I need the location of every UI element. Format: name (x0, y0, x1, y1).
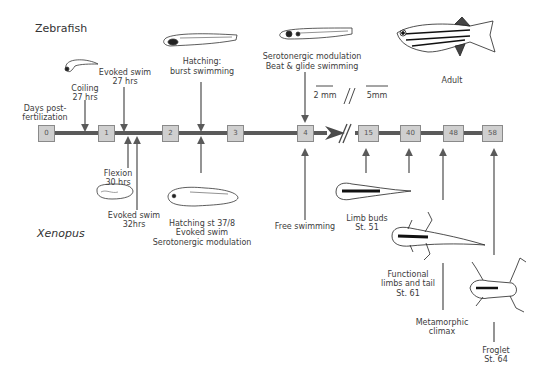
zebrafish-adult-icon (397, 17, 495, 56)
tick-day-4: 4 (297, 125, 314, 142)
scale-label-2mm: 2 mm (310, 91, 340, 101)
xenopus-tadpole-hatching-icon (168, 187, 238, 206)
axis-arrowhead-icon (325, 126, 345, 140)
xen-hatching-label-2: Evoked swim (150, 228, 254, 238)
zf-evoked-swim-label-2: 27 hrs (97, 77, 153, 87)
scale-label-5mm: 5mm (362, 91, 392, 101)
xen-free-swimming-label: Free swimming (272, 222, 338, 232)
zebrafish-larva-hatching-icon (164, 34, 237, 46)
tick-day-40: 40 (400, 125, 421, 142)
xenopus-tadpole-functional-limbs-icon (392, 212, 485, 260)
tick-day-0: 0 (38, 125, 55, 142)
tick-day-1: 1 (98, 125, 115, 142)
zf-hatching-label-2: burst swimming (166, 67, 238, 77)
zebrafish-larva-day4-icon (280, 28, 352, 39)
zf-coiling-label-2: 27 hrs (65, 93, 105, 103)
xen-flexion-label-2: 30 hrs (98, 178, 138, 188)
zf-adult-label: Adult (432, 76, 472, 86)
tick-day-58: 58 (482, 125, 503, 142)
zf-hatching-label-1: Hatching: (166, 57, 238, 67)
xenopus-tadpole-limb-buds-icon (336, 183, 411, 200)
xen-limb-buds-label-2: St. 51 (345, 223, 389, 233)
zf-serotonergic-label-1: Serotonergic modulation (262, 52, 362, 62)
zebrafish-embryo-coiling-icon (65, 60, 98, 72)
tick-day-48: 48 (443, 125, 464, 142)
tick-day-3: 3 (227, 125, 244, 142)
tick-day-15: 15 (358, 125, 379, 142)
xen-metamorphic-label-2: climax (410, 327, 474, 337)
xenopus-froglet-icon (470, 258, 526, 312)
xen-froglet-label-2: St. 64 (476, 355, 516, 365)
tick-day-2: 2 (162, 125, 179, 142)
scale-break-icon (344, 88, 355, 104)
xen-functional-limbs-label-3: St. 61 (378, 289, 438, 299)
xen-functional-limbs-label-2: limbs and tail (378, 279, 438, 289)
xen-hatching-label-3: Serotonergic modulation (150, 238, 254, 248)
zf-serotonergic-label-2: Beat & glide swimming (262, 62, 362, 72)
